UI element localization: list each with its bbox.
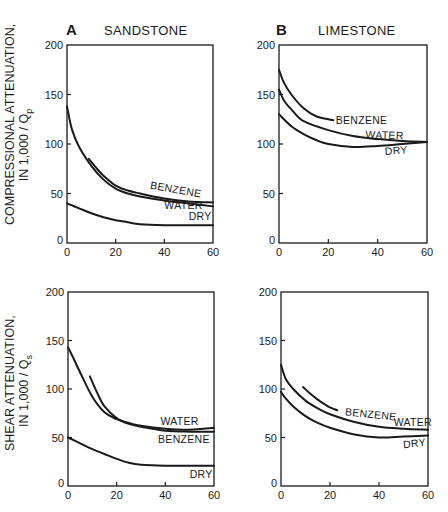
- curve-label-benzene: BENZENE: [158, 433, 210, 445]
- chart-panel-B-compressional: 0204060050100150200BENZENEWATERDRY: [257, 39, 433, 258]
- y-tick-label: 0: [269, 234, 275, 246]
- attenuation-figure: A SANDSTONE B LIMESTONE COMPRESSIONAL AT…: [0, 0, 448, 512]
- y-tick-label: 200: [46, 286, 64, 298]
- chart-panel-B-shear: 0204060050100150200BENZENEWATERDRY: [259, 286, 434, 501]
- plot-frame: [281, 292, 428, 486]
- curve-label-benzene: BENZENE: [336, 114, 388, 126]
- y-tick-label: 50: [51, 188, 63, 200]
- x-tick-label: 40: [372, 246, 384, 258]
- x-tick-label: 0: [278, 489, 284, 501]
- curve-label-water: WATER: [365, 128, 404, 141]
- curve-label-benzene: BENZENE: [344, 405, 397, 422]
- plot-canvas: 0204060050100150200BENZENEWATERDRY020406…: [0, 0, 448, 512]
- x-tick-label: 20: [324, 489, 336, 501]
- y-tick-label: 100: [46, 383, 64, 395]
- y-tick-label: 50: [265, 432, 277, 444]
- y-tick-label: 0: [57, 234, 63, 246]
- x-tick-label: 0: [64, 246, 70, 258]
- curve-label-water: WATER: [160, 415, 198, 427]
- y-tick-label: 100: [45, 138, 63, 150]
- chart-panel-A-compressional: 0204060050100150200BENZENEWATERDRY: [45, 39, 219, 258]
- curve-label-dry: DRY: [384, 143, 408, 157]
- y-tick-label: 50: [52, 432, 64, 444]
- x-tick-label: 0: [65, 489, 71, 501]
- x-tick-label: 60: [421, 246, 433, 258]
- curve-label-dry: DRY: [402, 436, 426, 450]
- y-tick-label: 150: [257, 89, 275, 101]
- plot-frame: [68, 292, 214, 486]
- y-tick-label: 100: [257, 138, 275, 150]
- x-tick-label: 20: [322, 246, 334, 258]
- y-tick-label: 200: [257, 39, 275, 51]
- x-tick-label: 60: [422, 489, 434, 501]
- x-tick-label: 40: [373, 489, 385, 501]
- series-line-benzene: [279, 70, 333, 120]
- x-tick-label: 40: [159, 489, 171, 501]
- y-tick-label: 0: [271, 477, 277, 489]
- x-tick-label: 60: [208, 489, 220, 501]
- y-tick-label: 50: [263, 188, 275, 200]
- curve-label-water: WATER: [394, 416, 432, 428]
- x-tick-label: 20: [110, 246, 122, 258]
- series-line-benzene: [303, 387, 337, 410]
- y-tick-label: 150: [46, 335, 64, 347]
- chart-panel-A-shear: 0204060050100150200WATERBENZENEDRY: [46, 286, 220, 501]
- y-tick-label: 150: [45, 89, 63, 101]
- curve-label-dry: DRY: [189, 210, 212, 222]
- x-tick-label: 40: [158, 246, 170, 258]
- y-tick-label: 0: [58, 477, 64, 489]
- x-tick-label: 0: [276, 246, 282, 258]
- x-tick-label: 20: [111, 489, 123, 501]
- y-tick-label: 100: [259, 383, 277, 395]
- y-tick-label: 150: [259, 335, 277, 347]
- y-tick-label: 200: [45, 39, 63, 51]
- curve-label-dry: DRY: [190, 468, 213, 480]
- y-tick-label: 200: [259, 286, 277, 298]
- x-tick-label: 60: [207, 246, 219, 258]
